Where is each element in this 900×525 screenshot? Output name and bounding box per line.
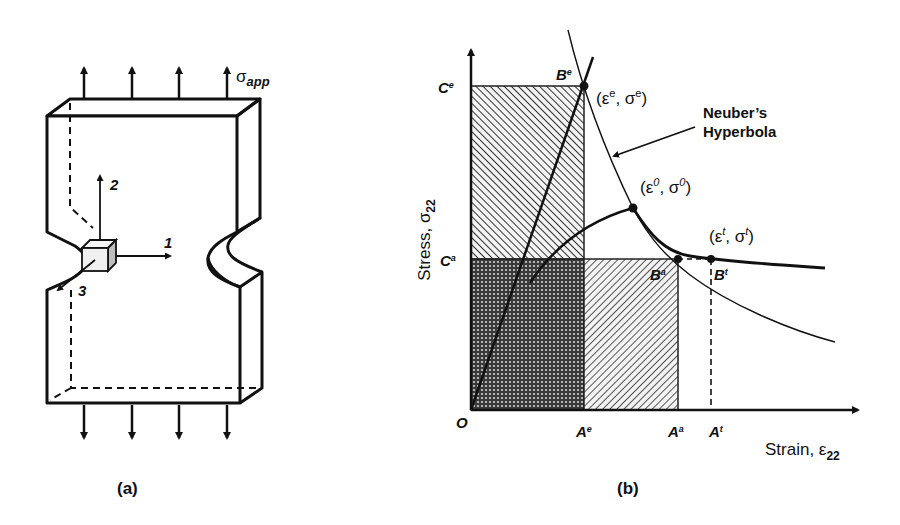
neuber-label-line1: Neuber’s <box>703 104 767 121</box>
axis-2-label: 2 <box>109 176 119 193</box>
label-be: Be <box>556 66 572 83</box>
neuber-label-line2: Hyperbola <box>703 123 777 140</box>
y-axis-title: Stress, σ22 <box>415 199 438 281</box>
tick-at: At <box>708 423 724 440</box>
label-bt: Bt <box>714 266 729 283</box>
coord-zero: (ε0, σ0) <box>640 176 691 197</box>
applied-stress-label: σapp <box>236 67 270 89</box>
tick-aa: Aa <box>667 423 684 440</box>
elastic-energy-region <box>471 86 584 259</box>
point-zero <box>629 204 638 213</box>
actual-energy-region <box>584 259 678 410</box>
point-bt <box>707 255 715 263</box>
stress-strain-plot: Neuber’s Hyperbola Ce Ca Be Ba Bt (εe, σ… <box>415 30 858 498</box>
point-be <box>580 82 589 91</box>
panel-a-caption: (a) <box>117 479 138 498</box>
axis-1-label: 1 <box>164 234 172 251</box>
axis-3-label: 3 <box>78 282 87 299</box>
tick-ce: Ce <box>438 79 454 96</box>
figure-canvas: σapp <box>0 0 900 525</box>
tick-ae: Ae <box>575 423 592 440</box>
x-axis-title: Strain, ε22 <box>765 440 840 463</box>
point-ba <box>674 255 682 263</box>
specimen-body <box>47 99 262 403</box>
applied-stress-arrows-bottom <box>84 405 227 438</box>
overlap-energy-region <box>471 259 584 410</box>
coord-elastic: (εe, σe) <box>596 87 647 108</box>
tick-ca: Ca <box>440 252 456 269</box>
origin-label: O <box>456 414 468 431</box>
panel-b-caption: (b) <box>617 479 639 498</box>
coord-true: (εt, σt) <box>709 225 754 246</box>
neuber-pointer-arrow <box>614 127 695 156</box>
specimen-diagram: σapp <box>47 67 270 498</box>
